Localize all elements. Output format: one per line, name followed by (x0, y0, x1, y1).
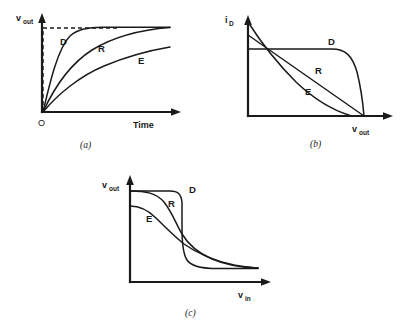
panel-a-y-axis-arrow (38, 13, 46, 23)
panel-a-caption: (a) (80, 140, 91, 151)
panel-b-x-axis-arrow (383, 112, 393, 120)
panel-a-origin-label: O (38, 118, 45, 128)
panel-c-y-axis-sublabel: out (109, 185, 120, 192)
panel-a-x-axis-label: Time (133, 120, 154, 130)
panel-a-y-axis-sublabel: out (23, 18, 34, 25)
panel-c-caption: (c) (185, 308, 196, 319)
panel-c-x-axis-label: v (238, 290, 243, 300)
panel-c-curve-d (130, 191, 258, 269)
panel-b-y-axis-label: i (225, 15, 228, 25)
panel-a-label-r: R (98, 43, 105, 54)
panel-c: v out v in D R E (c) (88, 160, 312, 325)
panel-c-label-e: E (146, 213, 152, 224)
panel-a-label-e: E (138, 55, 144, 66)
figure-container: v out Time O D R E (a) i D v out D (0, 0, 414, 325)
panel-b-curve-d (248, 49, 364, 116)
panel-c-label-r: R (168, 198, 175, 209)
panel-a: v out Time O D R E (a) (2, 0, 202, 160)
panel-a-label-d: D (60, 36, 67, 47)
panel-a-x-axis-arrow (171, 108, 181, 116)
panel-b-label-d: D (328, 36, 335, 47)
panel-b-y-axis-sublabel: D (229, 20, 234, 27)
panel-b: i D v out D R E (b) (200, 0, 414, 160)
panel-c-x-axis-arrow (261, 278, 271, 286)
panel-c-y-axis-arrow (126, 175, 134, 185)
panel-b-x-axis-label: v (352, 124, 357, 134)
panel-c-label-d: D (189, 184, 196, 195)
panel-a-y-axis-label: v (16, 13, 21, 23)
panel-c-curve-r (130, 191, 258, 268)
panel-b-x-axis-sublabel: out (359, 129, 370, 136)
panel-b-y-axis-arrow (244, 15, 252, 25)
panel-b-caption: (b) (310, 139, 321, 150)
panel-c-y-axis-label: v (102, 180, 107, 190)
panel-b-label-e: E (305, 86, 311, 97)
panel-b-label-r: R (315, 65, 322, 76)
panel-c-x-axis-sublabel: in (245, 295, 251, 302)
